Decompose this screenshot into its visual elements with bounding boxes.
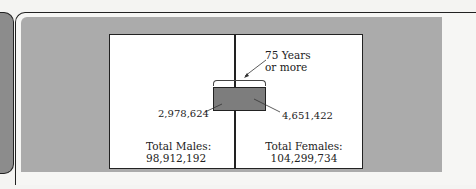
female-value: 4,651,422 bbox=[282, 110, 333, 122]
age-group-line1: 75 Years bbox=[265, 49, 311, 61]
age-group-line2: or more bbox=[265, 61, 311, 73]
female-total-label: Total Females: bbox=[264, 140, 344, 152]
male-total-value: 98,912,192 bbox=[146, 152, 206, 164]
male-total: Total Males: 98,912,192 bbox=[146, 140, 206, 164]
female-total-value: 104,299,734 bbox=[264, 152, 344, 164]
left-side-tab bbox=[0, 12, 14, 174]
male-value: 2,978,624 bbox=[158, 108, 209, 120]
age-group-brace bbox=[213, 80, 266, 86]
female-total: Total Females: 104,299,734 bbox=[264, 140, 344, 164]
age-75-plus-bar bbox=[213, 87, 266, 111]
age-group-label: 75 Years or more bbox=[265, 49, 311, 73]
male-total-label: Total Males: bbox=[146, 140, 206, 152]
